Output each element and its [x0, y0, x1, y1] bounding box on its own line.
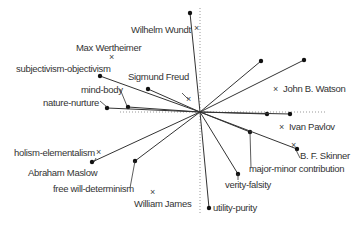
- label-william-james: William James: [134, 199, 191, 209]
- x-mark-holism: ×: [96, 148, 101, 157]
- x-mark-watson: ×: [273, 85, 278, 94]
- x-mark-william-james: ×: [150, 188, 155, 197]
- label-major-minor-contribution: major-minor contribution: [249, 164, 344, 174]
- label-mind-body: mind-body: [81, 85, 123, 95]
- label-wilhelm-wundt: Wilhelm Wundt: [131, 25, 191, 35]
- label-ivan-pavlov: Ivan Pavlov: [289, 122, 335, 132]
- label-free-will-determinism: free will-determinism: [53, 184, 134, 194]
- label-abraham-maslow: Abraham Maslow: [28, 168, 97, 178]
- label-john-b-watson: John B. Watson: [283, 84, 346, 94]
- label-nature-nurture: nature-nurture: [43, 98, 99, 108]
- x-mark-pavlov: ×: [279, 123, 284, 132]
- label-verity-falsity: verity-falsity: [225, 180, 271, 190]
- x-mark-wundt: ×: [194, 24, 199, 33]
- x-mark-skinner: ×: [291, 141, 296, 150]
- label-subjectivism-objectivism: subjectivism-objectivism: [16, 64, 111, 74]
- label-b-f-skinner: B. F. Skinner: [300, 151, 350, 161]
- label-holism-elementalism: holism-elementalism: [14, 148, 95, 158]
- label-utility-purity: utility-purity: [213, 203, 257, 213]
- x-mark-freud: ×: [186, 95, 191, 104]
- vectors: [90, 11, 306, 210]
- label-sigmund-freud: Sigmund Freud: [128, 72, 189, 82]
- x-mark-wertheimer: ×: [109, 53, 114, 62]
